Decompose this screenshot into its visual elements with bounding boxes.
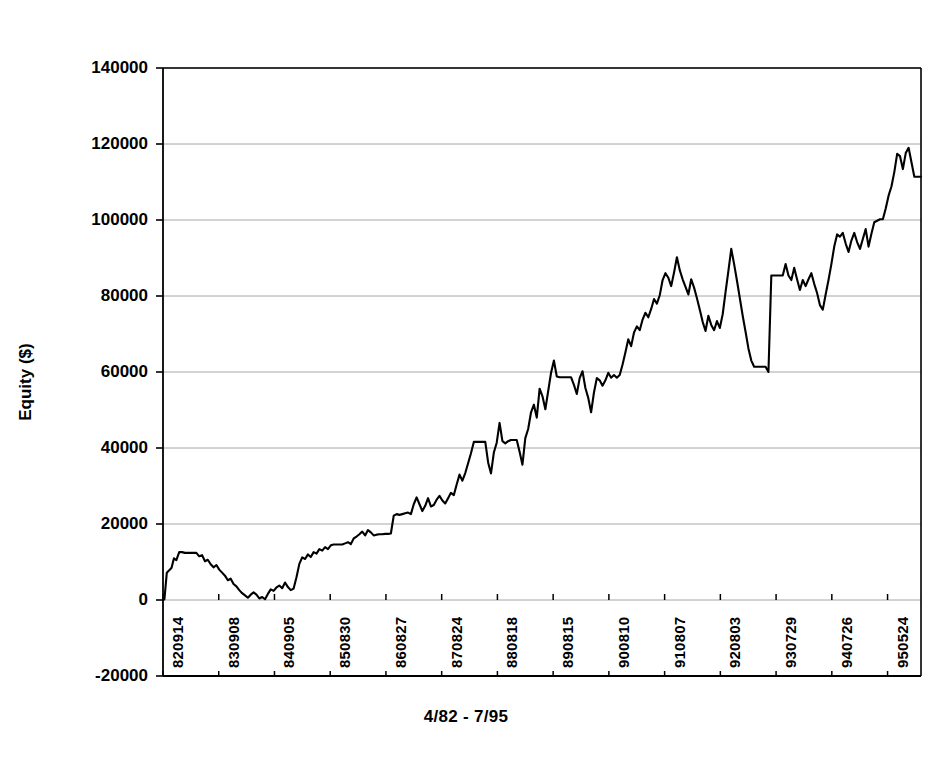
y-tick-label: 120000 [91,135,148,152]
y-tick-label: 20000 [101,515,148,532]
x-tick-label: 830908 [225,617,242,668]
y-tick-label: 140000 [91,59,148,76]
x-tick-label: 950524 [894,617,911,668]
equity-chart: Equity ($) 14000012000010000080000600004… [0,0,932,775]
y-tick-label: 80000 [101,287,148,304]
y-tick-label: 60000 [101,363,148,380]
gridlines [163,68,921,600]
x-tick-label: 840905 [280,617,297,668]
y-axis-tick-marks [156,68,163,676]
x-axis-title: 4/82 - 7/95 [0,707,932,727]
y-axis-title: Equity ($) [16,322,36,442]
equity-line-series [163,148,921,600]
x-tick-label: 910807 [671,617,688,668]
y-tick-label: 40000 [101,439,148,456]
x-tick-label: 930729 [782,617,799,668]
x-tick-label: 890815 [559,617,576,668]
x-tick-label: 900810 [615,617,632,668]
x-axis-tick-marks [163,594,888,676]
x-tick-label: 880818 [503,617,520,668]
x-tick-label: 850830 [336,617,353,668]
y-tick-label: 0 [139,591,148,608]
x-tick-label: 940726 [838,617,855,668]
x-tick-label: 920803 [726,617,743,668]
x-tick-label: 860827 [392,617,409,668]
y-tick-label: 100000 [91,211,148,228]
y-tick-label: -20000 [95,667,148,684]
x-tick-label: 820914 [169,617,186,668]
x-tick-label: 870824 [448,617,465,668]
